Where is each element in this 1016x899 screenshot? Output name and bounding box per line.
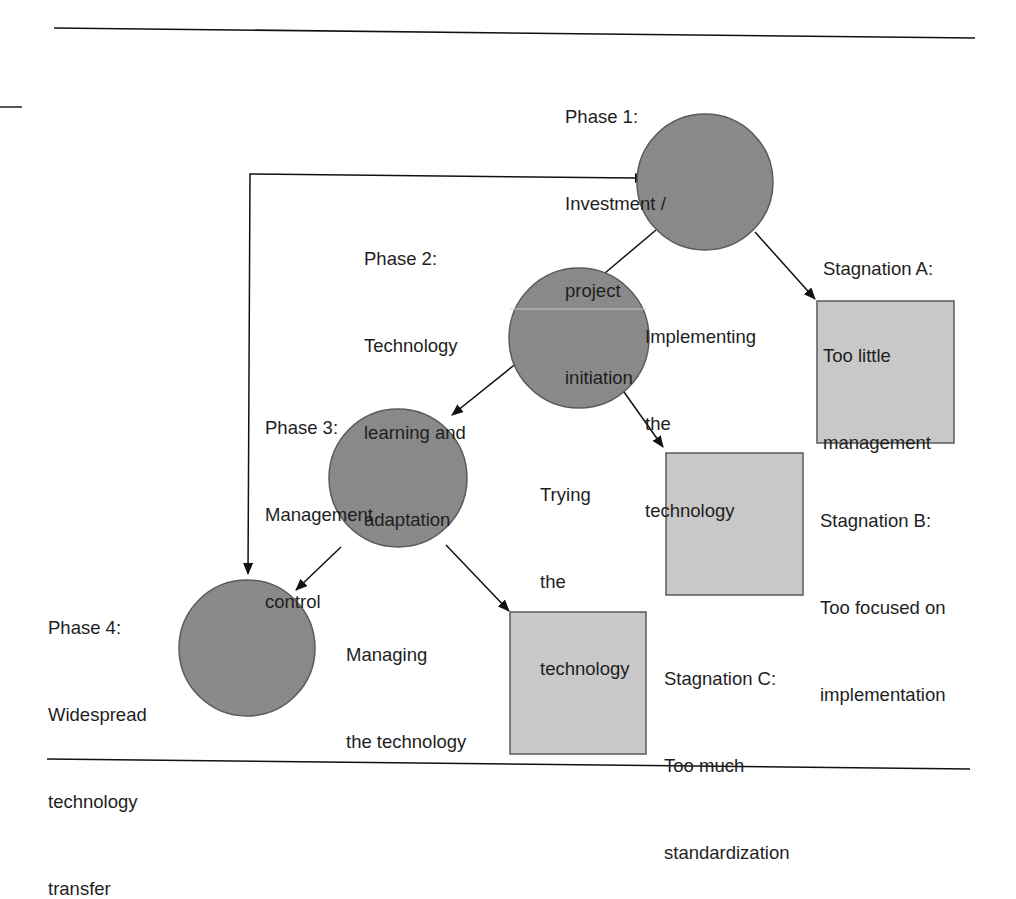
phase2-label: Phase 2: Technology learning and adaptat… <box>364 186 466 563</box>
arrow-phase1-to-stagA <box>755 232 815 299</box>
transition-line: the <box>645 409 756 438</box>
transition-line: technology <box>540 654 629 683</box>
stagnation-line: implementation <box>820 680 945 709</box>
stagnation-line: Too little <box>823 341 933 370</box>
phase4-line: Widespread <box>48 700 147 729</box>
phase4-line: transfer <box>48 874 147 899</box>
phase2-line: adaptation <box>364 505 466 534</box>
stagnation-c-title: Stagnation C: <box>664 664 789 693</box>
phase4-line: technology <box>48 787 147 816</box>
stagnation-a-label: Stagnation A: Too little management <box>823 196 933 486</box>
phase4-label: Phase 4: Widespread technology transfer <box>48 555 147 899</box>
transition-line: Trying <box>540 480 629 509</box>
stagnation-b-label: Stagnation B: Too focused on implementat… <box>820 448 945 738</box>
phase2-title: Phase 2: <box>364 244 466 273</box>
stagnation-line: Too focused on <box>820 593 945 622</box>
phase2-line: learning and <box>364 418 466 447</box>
transition-line: technology <box>645 496 756 525</box>
stagnation-line: Too much <box>664 751 789 780</box>
transition-line: the <box>540 567 629 596</box>
stagnation-c-label: Stagnation C: Too much standardization <box>664 606 789 896</box>
top-rule <box>54 28 975 38</box>
stagnation-a-title: Stagnation A: <box>823 254 933 283</box>
phase1-line: Investment / <box>565 189 666 218</box>
stagnation-b-title: Stagnation B: <box>820 506 945 535</box>
transition-line: Managing <box>346 640 466 669</box>
phase1-title: Phase 1: <box>565 102 666 131</box>
transition-implementing-label: Implementing the technology <box>645 264 756 554</box>
transition-line: the technology <box>346 727 466 756</box>
phase4-title: Phase 4: <box>48 613 147 642</box>
phase3-title: Phase 3: <box>265 413 373 442</box>
phase2-line: Technology <box>364 331 466 360</box>
transition-line: Implementing <box>645 322 756 351</box>
bottom-rule <box>47 759 970 769</box>
stagnation-line: standardization <box>664 838 789 867</box>
phase3-line: Management <box>265 500 373 529</box>
transition-managing-label: Managing the technology <box>346 582 466 785</box>
transition-trying-label: Trying the technology <box>540 422 629 712</box>
